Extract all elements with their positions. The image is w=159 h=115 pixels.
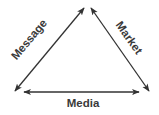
message-label: Message	[9, 17, 49, 62]
triangle-diagram: Message Market Media	[0, 0, 159, 115]
media-label: Media	[67, 97, 100, 109]
market-label: Market	[114, 19, 145, 56]
